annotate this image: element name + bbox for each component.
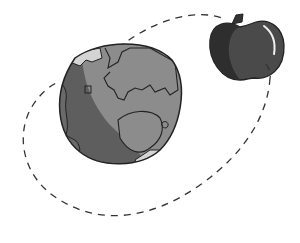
earth-globe-icon xyxy=(50,40,181,170)
apple-icon xyxy=(210,14,284,80)
illustration-canvas xyxy=(0,0,300,243)
